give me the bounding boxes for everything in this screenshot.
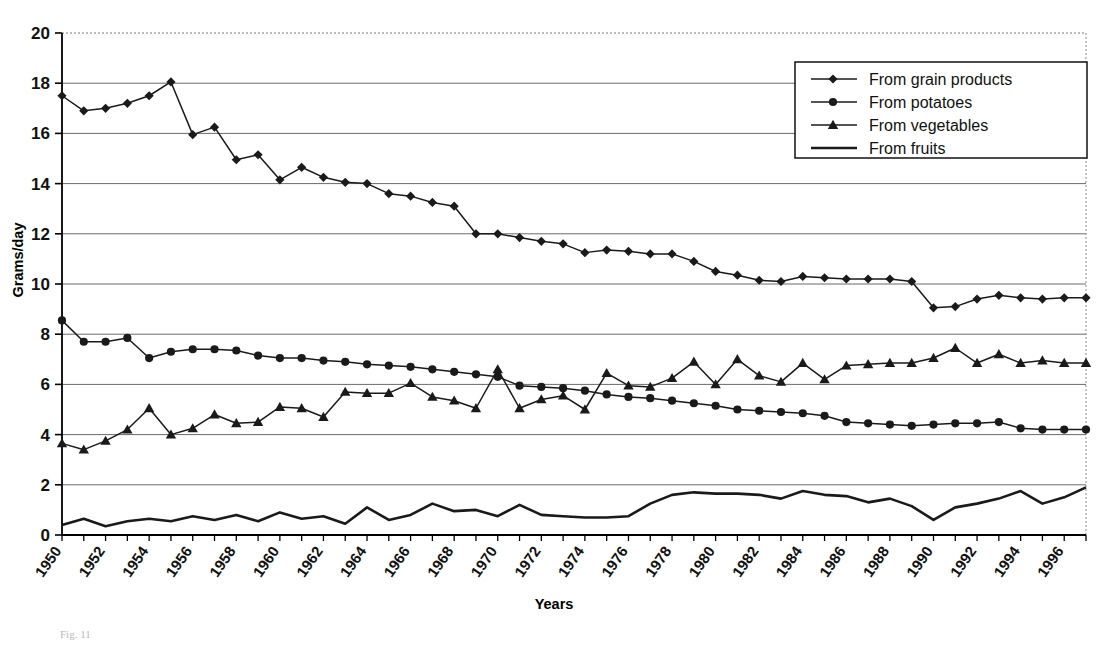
data-point-diamond xyxy=(210,123,219,132)
x-axis-tick-label: 1988 xyxy=(859,543,892,580)
y-axis-tick-label: 8 xyxy=(41,325,50,344)
data-point-diamond xyxy=(537,237,546,246)
data-point-diamond xyxy=(341,178,350,187)
data-point-triangle xyxy=(144,403,154,412)
data-point-circle xyxy=(842,418,850,426)
data-point-diamond xyxy=(515,233,524,242)
y-axis-title-text: Grams/day xyxy=(10,223,26,298)
data-point-diamond xyxy=(1038,294,1047,303)
data-point-diamond xyxy=(580,248,589,257)
data-point-triangle xyxy=(427,392,437,401)
data-point-circle xyxy=(254,351,262,359)
line-chart: 0246810121416182019501952195419561958196… xyxy=(0,0,1108,646)
data-point-diamond xyxy=(493,229,502,238)
y-axis-tick-label: 14 xyxy=(31,175,50,194)
y-axis-tick-label: 10 xyxy=(31,275,50,294)
data-point-circle xyxy=(581,387,589,395)
data-point-circle xyxy=(232,346,240,354)
data-point-triangle xyxy=(972,358,982,367)
data-point-diamond xyxy=(820,273,829,282)
data-point-triangle xyxy=(253,417,263,426)
data-point-circle xyxy=(80,338,88,346)
x-axis-tick-label: 1976 xyxy=(598,543,631,580)
data-point-diamond xyxy=(972,294,981,303)
legend: From grain productsFrom potatoesFrom veg… xyxy=(795,62,1087,158)
data-point-triangle xyxy=(275,402,285,411)
data-point-triangle xyxy=(623,380,633,389)
data-point-triangle xyxy=(950,343,960,352)
data-point-circle xyxy=(864,419,872,427)
data-point-diamond xyxy=(1016,293,1025,302)
data-point-triangle xyxy=(754,370,764,379)
data-point-diamond xyxy=(232,155,241,164)
x-axis-tick-label: 1968 xyxy=(424,543,457,580)
data-point-diamond xyxy=(667,249,676,258)
x-axis-tick-label: 1950 xyxy=(31,543,64,580)
data-point-circle xyxy=(646,394,654,402)
x-axis-tick-label: 1952 xyxy=(75,543,108,580)
data-point-circle xyxy=(515,382,523,390)
data-point-triangle xyxy=(689,357,699,366)
data-point-diamond xyxy=(166,77,175,86)
data-point-diamond xyxy=(57,91,66,100)
data-point-circle xyxy=(1060,425,1068,433)
x-axis-tick-label: 1984 xyxy=(772,542,805,580)
data-point-triangle xyxy=(601,368,611,377)
data-point-circle xyxy=(58,316,66,324)
x-axis-tick-label: 1980 xyxy=(685,543,718,580)
data-point-triangle xyxy=(57,438,67,447)
x-axis-tick-label: 1982 xyxy=(729,543,762,580)
data-point-circle xyxy=(101,338,109,346)
data-point-circle xyxy=(428,365,436,373)
data-point-diamond xyxy=(384,189,393,198)
data-point-diamond xyxy=(798,272,807,281)
data-point-circle xyxy=(210,345,218,353)
data-point-triangle xyxy=(798,358,808,367)
data-point-diamond xyxy=(885,274,894,283)
data-point-circle xyxy=(820,412,828,420)
x-axis-tick-label: 1960 xyxy=(249,543,282,580)
data-point-triangle xyxy=(580,404,590,413)
x-axis-tick-label: 1986 xyxy=(816,543,849,580)
series-line xyxy=(62,487,1086,526)
data-point-diamond xyxy=(776,277,785,286)
y-axis-tick-label: 0 xyxy=(41,526,50,545)
y-axis-tick-label: 12 xyxy=(31,225,50,244)
data-point-circle xyxy=(450,368,458,376)
data-point-circle xyxy=(886,420,894,428)
x-axis-tick-label: 1954 xyxy=(119,542,152,580)
figure-container: 0246810121416182019501952195419561958196… xyxy=(0,0,1108,646)
data-point-circle xyxy=(929,420,937,428)
data-point-circle xyxy=(385,361,393,369)
data-point-circle xyxy=(799,409,807,417)
data-point-diamond xyxy=(123,99,132,108)
data-point-diamond xyxy=(646,249,655,258)
x-axis-tick-label: 1970 xyxy=(467,543,500,580)
data-point-diamond xyxy=(994,291,1003,300)
data-point-triangle xyxy=(819,374,829,383)
data-point-circle xyxy=(951,419,959,427)
data-point-diamond xyxy=(755,276,764,285)
data-point-circle xyxy=(668,397,676,405)
x-axis-tick-label: 1964 xyxy=(336,542,369,580)
data-point-diamond xyxy=(559,239,568,248)
data-point-diamond xyxy=(951,302,960,311)
data-point-diamond xyxy=(689,257,698,266)
x-axis-tick-label: 1996 xyxy=(1034,543,1067,580)
data-point-diamond xyxy=(1060,293,1069,302)
series-3 xyxy=(57,343,1091,454)
data-point-diamond xyxy=(1081,293,1090,302)
data-point-circle xyxy=(472,370,480,378)
data-point-circle xyxy=(603,390,611,398)
x-axis-tick-label: 1974 xyxy=(554,542,587,580)
figure-caption: Fig. 11 xyxy=(60,628,91,640)
data-point-circle xyxy=(755,407,763,415)
data-point-triangle xyxy=(928,353,938,362)
data-point-circle xyxy=(363,360,371,368)
data-point-triangle xyxy=(493,364,503,373)
y-axis-tick-label: 16 xyxy=(31,124,50,143)
series-4 xyxy=(62,487,1086,526)
data-point-circle xyxy=(995,418,1003,426)
legend-label-2: From potatoes xyxy=(869,94,972,111)
x-axis-tick-label: 1994 xyxy=(990,542,1023,580)
